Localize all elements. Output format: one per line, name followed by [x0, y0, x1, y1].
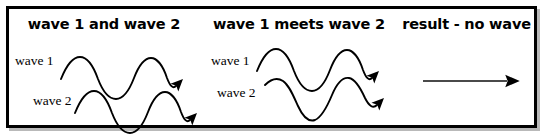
panel-3-result-svg [399, 9, 534, 125]
panel-2-wave-2-curve [265, 78, 377, 121]
panel-wave-1-meets-wave-2: wave 1 meets wave 2 wave 1 wave 2 [199, 9, 399, 125]
panel-1-wave-1-curve [61, 57, 176, 99]
diagram-frame: wave 1 and wave 2 wave 1 wave 2 [6, 6, 537, 128]
panel-2-waves-svg [199, 9, 399, 125]
wave-interference-diagram: wave 1 and wave 2 wave 1 wave 2 [0, 0, 555, 135]
panel-wave-1-and-wave-2: wave 1 and wave 2 wave 1 wave 2 [9, 9, 199, 125]
panel-1-wave-2-curve [75, 91, 190, 133]
panel-1-waves-svg [9, 9, 199, 125]
panel-2-wave-1-curve [257, 49, 372, 91]
panel-result-no-wave: result - no wave [399, 9, 534, 125]
